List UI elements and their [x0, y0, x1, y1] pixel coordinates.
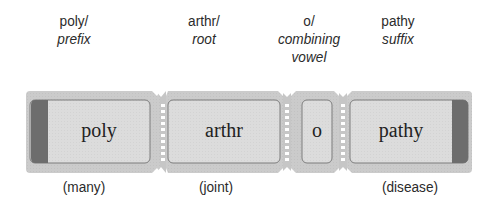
meaning-many: (many) — [49, 178, 119, 196]
meaning-joint: (joint) — [181, 178, 251, 196]
word-strip — [0, 0, 489, 204]
start-band — [31, 100, 48, 163]
segment-text-poly: poly — [48, 119, 150, 142]
segment-text-arthr: arthr — [168, 119, 280, 142]
segment-text-pathy: pathy — [350, 119, 452, 142]
end-band — [452, 100, 468, 163]
meaning-disease: (disease) — [370, 178, 449, 196]
segment-text-o: o — [302, 119, 332, 142]
